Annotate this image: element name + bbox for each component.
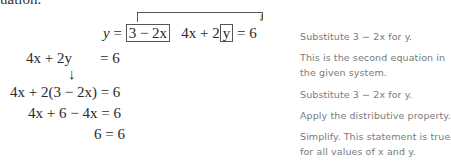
line-3-equation: 4x + 2(3 − 2x) = 6	[10, 84, 120, 101]
line-3-note: Substitute 3 − 2x for y.	[300, 87, 412, 102]
line-2-note-2: the given system.	[300, 65, 387, 80]
line-5-note-1: Simplify. This statement is true	[300, 129, 450, 144]
bracket-arrow-icon: ↓	[258, 10, 264, 25]
line-1-lhs: y	[103, 25, 110, 41]
line-4-note: Apply the distributive property.	[300, 108, 451, 123]
second-eq-post: = 6	[237, 25, 257, 41]
line-1-equation: y = 3 − 2x 4x + 2y = 6	[103, 25, 257, 42]
second-eq-pre: 4x + 2	[181, 25, 219, 41]
line-2-lhs: 4x + 2y	[26, 50, 72, 67]
line-1-note: Substitute 3 − 2x for y.	[300, 29, 412, 44]
line-5-equation: 6 = 6	[94, 126, 125, 143]
line-5-note-2: for all values of x and y.	[300, 144, 416, 159]
substitution-bracket	[137, 12, 263, 22]
down-arrow-icon: ↓	[68, 66, 76, 83]
heading-fragment: uation.	[0, 0, 41, 8]
line-4-equation: 4x + 6 − 4x = 6	[28, 105, 121, 122]
line-1-eq: =	[113, 25, 121, 41]
line-2-rhs: = 6	[100, 50, 120, 67]
boxed-expression: 3 − 2x	[126, 24, 170, 42]
line-2-note-1: This is the second equation in	[300, 50, 445, 65]
bracket-right-line	[262, 12, 263, 20]
boxed-y: y	[220, 24, 234, 42]
